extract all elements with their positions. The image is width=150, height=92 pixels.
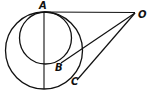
label-C: C xyxy=(71,76,79,87)
label-B: B xyxy=(55,62,63,73)
label-O: O xyxy=(138,9,147,20)
tangent-OA xyxy=(44,12,135,13)
small-circle xyxy=(20,12,72,64)
label-A: A xyxy=(38,0,47,11)
tangent-circles-diagram: A O B C xyxy=(0,0,150,92)
